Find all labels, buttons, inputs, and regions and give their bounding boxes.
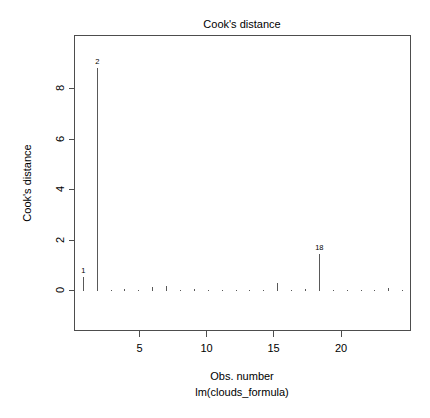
- x-axis-tick-labels: 5 10 15 20: [136, 342, 347, 354]
- x-tick-label-20: 20: [335, 342, 347, 354]
- y-tick-label-0: 0: [54, 287, 66, 293]
- point-label-1: 1: [81, 266, 85, 275]
- y-tick-label-8: 8: [54, 85, 66, 91]
- point-label-2: 2: [95, 57, 99, 66]
- x-axis-ticks: [140, 331, 342, 337]
- page-title: Cook's distance: [203, 18, 280, 30]
- y-tick-label-4: 4: [54, 186, 66, 192]
- point-annotations: 1218: [81, 57, 323, 274]
- plot-subtitle: lm(clouds_formula): [195, 386, 289, 398]
- x-tick-label-10: 10: [200, 342, 212, 354]
- x-axis-title: Obs. number: [210, 370, 274, 382]
- cooks-distance-plot: 0 2 4 6 8 5 10 15 20 1218 Cook's distanc…: [0, 0, 430, 418]
- y-axis-title: Cook's distance: [21, 144, 33, 221]
- y-axis-tick-labels: 0 2 4 6 8: [54, 85, 66, 293]
- x-tick-label-15: 15: [267, 342, 279, 354]
- x-tick-label-5: 5: [136, 342, 142, 354]
- y-axis-ticks: [69, 89, 75, 291]
- y-tick-label-6: 6: [54, 136, 66, 142]
- cooks-distance-stems: [84, 68, 403, 290]
- plot-panel-border: [75, 36, 411, 331]
- plot-canvas: 0 2 4 6 8 5 10 15 20 1218 Cook's distanc…: [0, 0, 430, 418]
- y-tick-label-2: 2: [54, 237, 66, 243]
- point-label-18: 18: [315, 243, 323, 252]
